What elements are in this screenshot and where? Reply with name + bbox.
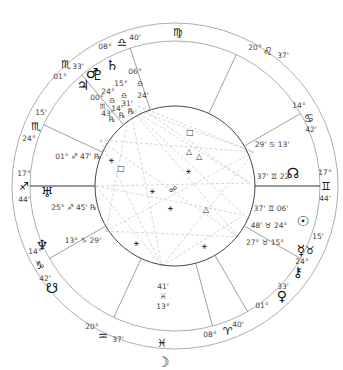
saturn-icon: ♄ bbox=[106, 58, 119, 72]
cusp-degree: 15' bbox=[312, 233, 324, 241]
aspect-symbol: ☍ bbox=[169, 186, 177, 194]
aspect-symbol: ⚹ bbox=[186, 168, 191, 176]
cusp-degree: 20° bbox=[85, 323, 98, 331]
sign-glyph-virgo: ♍ bbox=[173, 27, 183, 38]
aspect-symbol: △ bbox=[186, 148, 192, 156]
aspect-symbol: ⚹ bbox=[168, 205, 173, 213]
planet-position-label: 25° ♐ 45' ℞ bbox=[51, 204, 97, 212]
pluto-icon: ♇ bbox=[92, 68, 105, 82]
sign-glyph-sagittarius: ♐ bbox=[19, 181, 29, 192]
planet-position-label: 48' ♉ 24° bbox=[251, 222, 287, 230]
planet-position-label: ♎ bbox=[137, 80, 144, 88]
planet-position-label: 15° bbox=[114, 80, 127, 88]
aspect-line bbox=[138, 106, 254, 152]
aspect-line bbox=[162, 215, 244, 266]
jupiter-icon: ♃ bbox=[77, 78, 90, 92]
cusp-degree: 01° bbox=[255, 302, 268, 310]
cusp-minutes: 42' bbox=[305, 126, 317, 134]
aspect-symbol: ⚹ bbox=[109, 157, 114, 165]
house-cusp-line bbox=[209, 55, 236, 114]
uranus-icon: ♅ bbox=[41, 185, 54, 199]
planet-position-label: 06° bbox=[128, 68, 141, 76]
cusp-minutes: 40' bbox=[129, 34, 141, 42]
moon-icon: ☽ bbox=[157, 355, 170, 369]
cusp-degree: 17° bbox=[318, 169, 331, 177]
aspect-line bbox=[138, 106, 250, 183]
cusp-degree: 20° bbox=[248, 44, 261, 52]
mercury-icon: ☿ bbox=[297, 243, 306, 257]
house-cusp-line bbox=[114, 259, 141, 318]
cusp-minutes: 40' bbox=[232, 321, 244, 329]
aspect-line bbox=[106, 152, 254, 231]
sun-icon: ☉ bbox=[297, 214, 310, 228]
aspect-symbol: □ bbox=[117, 165, 125, 173]
south-node-icon: ☋ bbox=[46, 281, 58, 295]
planet-position-label: 13° bbox=[156, 303, 169, 311]
planet-position-label: ℞ bbox=[109, 116, 116, 124]
cusp-degree: 14° bbox=[292, 102, 305, 110]
planet-position-label: 41' bbox=[157, 283, 169, 291]
aspect-symbol: △ bbox=[196, 153, 202, 161]
aspect-line bbox=[106, 231, 238, 237]
cusp-minutes: 37' bbox=[112, 336, 124, 344]
cusp-degree: 08° bbox=[98, 43, 111, 51]
planet-position-label: 27° ♉ 15° bbox=[246, 239, 284, 247]
sign-glyph-pisces: ♓ bbox=[157, 338, 167, 349]
sign-glyph-taurus: ♉ bbox=[305, 245, 315, 256]
planet-position-label: 37' ♊ 22' bbox=[257, 173, 292, 181]
sign-glyph-scorpio-lower: ♏ bbox=[31, 121, 41, 132]
planet-position-label: 13° ♑ 29' bbox=[65, 237, 101, 245]
cusp-minutes: 24° bbox=[22, 135, 35, 143]
cusp-degree: 17° bbox=[17, 170, 30, 178]
planet-position-label: 29' ♋ 13' bbox=[255, 141, 290, 149]
neptune-icon: ♆ bbox=[36, 238, 49, 252]
aspect-symbol: ⚹ bbox=[150, 188, 155, 196]
cusp-minutes: 37' bbox=[277, 52, 289, 60]
cusp-minutes: 44' bbox=[319, 195, 331, 203]
sign-glyph-capricorn: ♑ bbox=[35, 260, 45, 271]
planet-position-label: 24' bbox=[137, 92, 149, 100]
aspect-symbol: △ bbox=[203, 206, 209, 214]
house-cusp-line bbox=[215, 255, 248, 311]
planet-position-label: ♓ bbox=[160, 293, 167, 301]
cusp-degree: 15' bbox=[35, 109, 47, 117]
sign-glyph-gemini: ♊ bbox=[321, 181, 331, 192]
planet-position-label: 00° bbox=[90, 94, 103, 102]
house-cusp-line bbox=[44, 125, 103, 152]
cusp-degree: 01° bbox=[53, 73, 66, 81]
planet-position-label: 37' ♊ 06' bbox=[254, 205, 289, 213]
sign-glyph-aquarius: ♒ bbox=[98, 331, 108, 342]
cusp-minutes: 33' bbox=[72, 63, 84, 71]
venus-icon: ♀ bbox=[277, 289, 287, 303]
cusp-degree: 08° bbox=[203, 331, 216, 339]
chiron-icon: ⚷ bbox=[293, 265, 303, 279]
aspect-symbol: ⚹ bbox=[202, 243, 207, 251]
sign-glyph-leo: ♌ bbox=[263, 46, 273, 57]
cusp-minutes: 44' bbox=[18, 196, 30, 204]
sign-glyph-cancer: ♋ bbox=[304, 113, 314, 124]
aspect-symbol: ⚹ bbox=[134, 240, 139, 248]
aspect-symbol: □ bbox=[186, 129, 194, 137]
aspect-line bbox=[130, 108, 244, 215]
planet-position-label: ℞ bbox=[119, 112, 126, 120]
planet-position-label: ℞ bbox=[128, 108, 135, 116]
sign-glyph-scorpio-upper: ♏ bbox=[61, 59, 71, 70]
house-cusp-line bbox=[196, 263, 213, 326]
sign-glyph-libra: ♎ bbox=[117, 37, 127, 48]
planet-position-label: 01° ♐ 47' ℞ bbox=[55, 153, 101, 161]
